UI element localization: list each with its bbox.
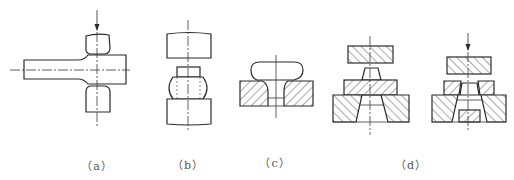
punch bbox=[348, 46, 393, 63]
lower-die-left bbox=[432, 95, 458, 122]
panel-d-before bbox=[333, 36, 409, 135]
die-left-half bbox=[240, 81, 268, 106]
caption-a: （a） bbox=[81, 157, 113, 173]
ejector-insert bbox=[459, 110, 480, 122]
upper-flat-die bbox=[167, 33, 211, 59]
billet-top bbox=[177, 67, 200, 77]
arrowhead-icon bbox=[95, 24, 100, 31]
blank-in-guide bbox=[460, 83, 479, 95]
arrowhead-icon bbox=[466, 44, 471, 51]
lower-die-left bbox=[333, 95, 362, 122]
upper-die bbox=[86, 34, 110, 54]
lower-die-right bbox=[381, 95, 409, 122]
forging-process-diagram bbox=[0, 0, 514, 180]
caption-c: （c） bbox=[259, 154, 290, 170]
panel-a bbox=[10, 10, 130, 128]
punch bbox=[447, 57, 491, 74]
guide-plate-left bbox=[444, 81, 461, 95]
caption-b: （b） bbox=[172, 156, 204, 172]
upset-head bbox=[251, 62, 303, 80]
panel-c bbox=[240, 55, 313, 118]
guide-plate bbox=[344, 80, 397, 95]
die-right-half bbox=[284, 81, 313, 106]
caption-d: （d） bbox=[395, 156, 427, 172]
tapered-blank bbox=[362, 68, 381, 80]
panel-d-during bbox=[432, 33, 506, 132]
lower-die-right bbox=[481, 95, 506, 122]
lower-flat-die bbox=[167, 99, 211, 125]
guide-plate-right bbox=[478, 81, 494, 95]
lower-die bbox=[86, 86, 110, 112]
panel-b bbox=[167, 20, 211, 130]
workpiece bbox=[24, 55, 126, 84]
